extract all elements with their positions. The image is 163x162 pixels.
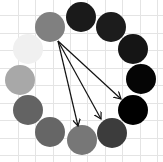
circle-node-c3 bbox=[96, 12, 126, 42]
arrow-c1-to-c6 bbox=[58, 41, 121, 99]
circle-node-c2 bbox=[66, 2, 96, 32]
circle-node-c6 bbox=[118, 95, 148, 125]
circle-node-c4 bbox=[118, 34, 148, 64]
circle-node-c7 bbox=[97, 118, 127, 148]
arrow-c1-to-c8 bbox=[58, 41, 78, 126]
diagram-canvas bbox=[0, 0, 163, 162]
circle-node-c12 bbox=[13, 34, 43, 64]
circle-arrow-diagram bbox=[0, 0, 163, 162]
arrow-c1-to-c7 bbox=[58, 41, 101, 119]
arrow-group bbox=[58, 41, 121, 126]
circle-ring bbox=[5, 2, 156, 155]
circle-node-c9 bbox=[35, 117, 65, 147]
circle-node-c8 bbox=[67, 125, 97, 155]
circle-node-c5 bbox=[126, 64, 156, 94]
circle-node-c10 bbox=[13, 95, 43, 125]
circle-node-c1 bbox=[35, 12, 65, 42]
circle-node-c11 bbox=[5, 65, 35, 95]
